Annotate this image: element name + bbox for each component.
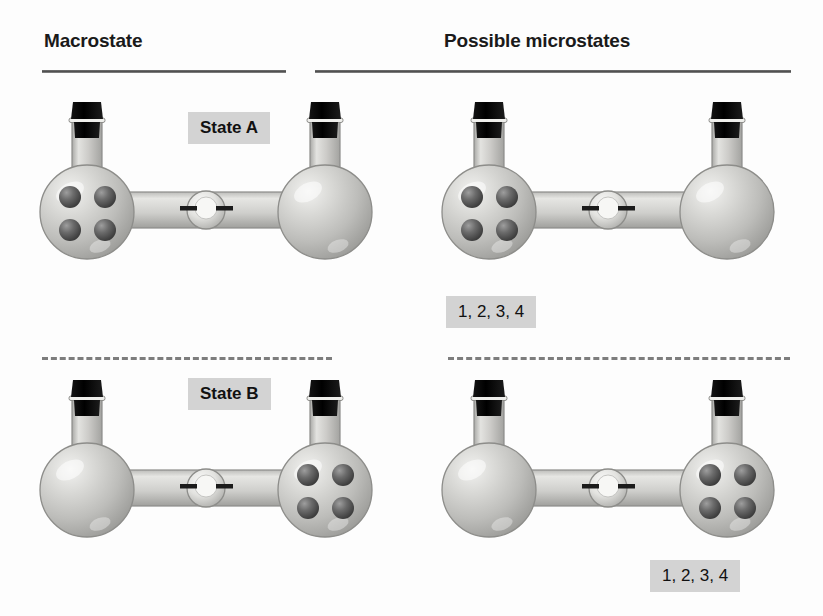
apparatus-macrostate-state-b [30,378,380,563]
apparatus-microstate-state-a [432,100,782,285]
column-header-microstates: Possible microstates [444,30,630,52]
stopper-icon [309,102,341,119]
row-divider-right [448,357,790,360]
flask-left [40,380,134,537]
apparatus-macrostate-state-a [30,100,380,285]
row-divider-left [42,357,332,360]
microstate-label-top: 1, 2, 3, 4 [446,296,536,328]
stopper-icon [473,380,505,397]
stopper-icon [71,102,103,119]
stopper-icon [309,380,341,397]
flask-right [680,380,774,537]
microstate-label-bottom: 1, 2, 3, 4 [650,560,740,592]
stopper-icon [473,102,505,119]
flask-left [442,102,536,259]
flask-right [278,102,372,259]
apparatus-microstate-state-b [432,378,782,563]
flask-left [40,102,134,259]
header-rule-left [42,70,286,73]
stopper-icon [711,380,743,397]
header-rule-right [315,70,791,73]
flask-right [278,380,372,537]
flask-right [680,102,774,259]
stopper-icon [71,380,103,397]
flask-left [442,380,536,537]
stopper-icon [711,102,743,119]
column-header-macrostate: Macrostate [44,30,142,52]
